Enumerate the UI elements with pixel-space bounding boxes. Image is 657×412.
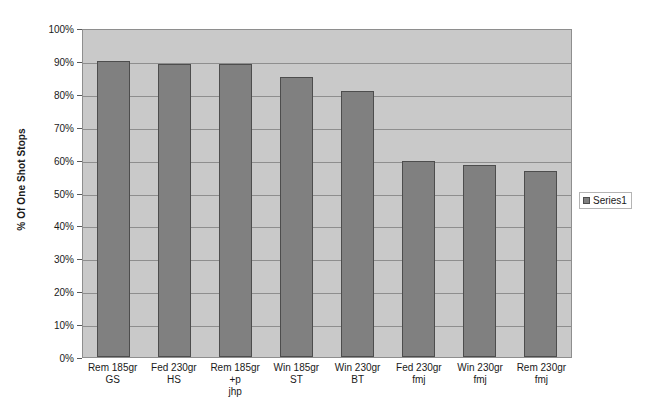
y-axis-tick-label: 90% xyxy=(54,56,74,67)
chart-legend: Series1 xyxy=(579,192,632,209)
y-axis-tickmark xyxy=(77,62,82,63)
bar-group xyxy=(266,30,327,357)
x-axis-tick-label-line: Win 230gr BT xyxy=(328,362,387,386)
y-axis-tick-label: 80% xyxy=(54,89,74,100)
x-axis-tick-labels: Rem 185gr GSFed 230gr HSRem 185gr +pjhpW… xyxy=(82,362,572,408)
bar-series-series1 xyxy=(83,30,571,357)
x-axis-tick-label: Win 230gr BT xyxy=(327,362,388,408)
x-axis-tick-label-line: jhp xyxy=(206,386,265,398)
y-axis-tick-label: 30% xyxy=(54,254,74,265)
x-axis-tick-label-line: Rem 185gr GS xyxy=(83,362,142,386)
x-axis-tick-label: Win 230gr fmj xyxy=(450,362,511,408)
y-axis-tick-label: 40% xyxy=(54,221,74,232)
y-axis-tick-label: 70% xyxy=(54,122,74,133)
y-axis-tickmark xyxy=(77,325,82,326)
y-axis-tickmark xyxy=(77,358,82,359)
bar[interactable] xyxy=(463,165,496,357)
x-axis-tick-label: Rem 230gr fmj xyxy=(511,362,572,408)
x-axis-tick-label-line: Win 185gr ST xyxy=(267,362,326,386)
y-axis-tickmark xyxy=(77,226,82,227)
y-axis-tickmark xyxy=(77,194,82,195)
legend-entry-label: Series1 xyxy=(593,195,627,206)
x-axis-tick-label: Fed 230gr fmj xyxy=(388,362,449,408)
x-axis-tick-label-line: Fed 230gr fmj xyxy=(389,362,448,386)
bar[interactable] xyxy=(341,91,374,357)
y-axis-tick-labels: 100%90%80%70%60%50%40%30%20%10%0% xyxy=(34,29,78,358)
y-axis-tickmark xyxy=(77,161,82,162)
plot-area xyxy=(82,29,572,358)
bar[interactable] xyxy=(280,77,313,357)
y-axis-tick-label: 60% xyxy=(54,155,74,166)
bar[interactable] xyxy=(158,64,191,357)
legend-swatch-icon xyxy=(583,197,590,204)
x-axis-tick-label: Fed 230gr HS xyxy=(143,362,204,408)
bar[interactable] xyxy=(524,171,557,357)
x-axis-tick-label: Win 185gr ST xyxy=(266,362,327,408)
bar[interactable] xyxy=(97,61,130,357)
bar-group xyxy=(327,30,388,357)
x-axis-tick-label-line: Rem 230gr fmj xyxy=(512,362,571,386)
y-axis-tick-label: 10% xyxy=(54,320,74,331)
x-axis-tick-label-line: Win 230gr fmj xyxy=(451,362,510,386)
bar-group xyxy=(449,30,510,357)
bar[interactable] xyxy=(402,161,435,357)
y-axis-tick-label: 50% xyxy=(54,188,74,199)
y-axis-tick-label: 0% xyxy=(60,353,74,364)
bar-chart: % Of One Shot Stops 100%90%80%70%60%50%4… xyxy=(0,0,657,412)
y-axis-title: % Of One Shot Stops xyxy=(8,0,34,358)
y-axis-tickmark xyxy=(77,259,82,260)
y-axis-tickmark xyxy=(77,29,82,30)
bar[interactable] xyxy=(219,64,252,357)
y-axis-tickmark xyxy=(77,128,82,129)
y-axis-tickmark xyxy=(77,95,82,96)
x-axis-tick-label: Rem 185gr GS xyxy=(82,362,143,408)
x-axis-tick-label-line: Fed 230gr HS xyxy=(144,362,203,386)
y-axis-title-text: % Of One Shot Stops xyxy=(16,128,27,230)
bar-group xyxy=(144,30,205,357)
y-axis-tick-label: 100% xyxy=(48,24,74,35)
bar-group xyxy=(83,30,144,357)
y-axis-tick-label: 20% xyxy=(54,287,74,298)
x-axis-tick-label-line: Rem 185gr +p xyxy=(206,362,265,386)
y-axis-tickmark xyxy=(77,292,82,293)
bar-group xyxy=(205,30,266,357)
x-axis-tick-label: Rem 185gr +pjhp xyxy=(205,362,266,408)
bar-group xyxy=(510,30,571,357)
bar-group xyxy=(388,30,449,357)
